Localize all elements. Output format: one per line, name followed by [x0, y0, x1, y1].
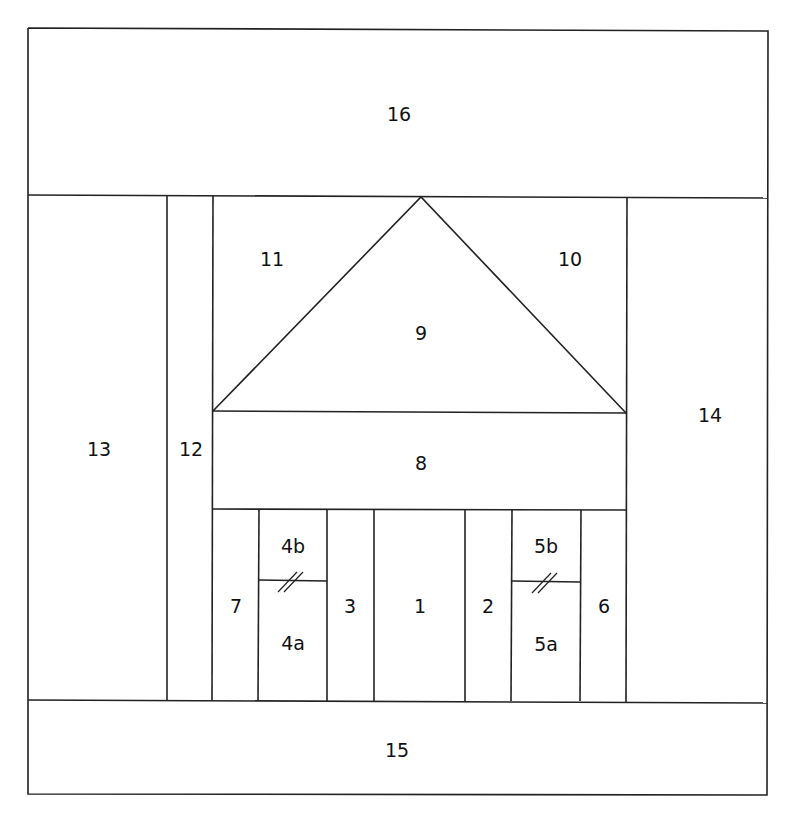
label-1: 1: [414, 595, 426, 617]
label-12: 12: [179, 438, 203, 460]
triangle-9: [213, 197, 626, 413]
label-4a: 4a: [281, 632, 305, 654]
line-below-16: [28, 195, 767, 198]
line-9-8: [213, 411, 626, 413]
label-16: 16: [387, 103, 411, 125]
line-7-4: [258, 509, 259, 700]
label-9: 9: [415, 322, 427, 344]
label-15: 15: [385, 739, 409, 761]
line-5-6: [580, 510, 581, 701]
label-6: 6: [598, 595, 610, 617]
line-above-15: [28, 700, 767, 703]
label-14: 14: [698, 404, 722, 426]
label-8: 8: [415, 452, 427, 474]
line-center-14: [626, 197, 627, 702]
label-13: 13: [87, 438, 111, 460]
line-2-5: [511, 510, 512, 701]
label-7: 7: [230, 595, 242, 617]
label-10: 10: [558, 248, 582, 270]
label-5a: 5a: [534, 633, 558, 655]
label-3: 3: [344, 595, 356, 617]
line-12-center: [212, 196, 213, 700]
line-8-columns: [212, 509, 626, 510]
label-2: 2: [482, 595, 494, 617]
label-5b: 5b: [534, 535, 558, 557]
label-11: 11: [260, 248, 284, 270]
line-5b-5a: [512, 581, 580, 582]
line-4b-4a: [259, 580, 327, 581]
label-4b: 4b: [281, 535, 305, 557]
